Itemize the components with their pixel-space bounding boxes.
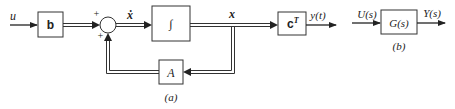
plus-sign-top: + (93, 8, 100, 19)
transfer-function-diagram: U(s) G(s) Y(s) (b) (352, 7, 445, 53)
block-diagram-figure: u b + + ẋ ∫ x cT y(t) (0, 0, 455, 109)
transfer-function-label: G(s) (389, 17, 409, 30)
integrator-symbol: ∫ (168, 17, 173, 31)
caption-a: (a) (165, 91, 178, 104)
gain-b-label: b (47, 18, 54, 32)
state-space-diagram: u b + + ẋ ∫ x cT y(t) (10, 6, 336, 104)
arrow-head (92, 21, 100, 29)
output-y-label: y(t) (309, 9, 326, 22)
state-x-label: x (228, 7, 235, 21)
caption-b: (b) (393, 40, 406, 53)
plus-sign-bottom: + (97, 30, 104, 41)
state-derivative-label: ẋ (126, 8, 133, 22)
input-U-label: U(s) (357, 8, 377, 21)
feedback-gain-A-label: A (166, 66, 175, 80)
output-Y-label: Y(s) (423, 7, 441, 20)
input-u-label: u (10, 9, 16, 23)
